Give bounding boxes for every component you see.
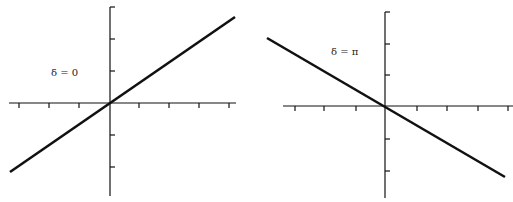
right-plot-line	[267, 38, 505, 177]
label-delta-zero: δ = 0	[51, 67, 78, 78]
left-plot-line	[10, 17, 235, 172]
label-delta-pi: δ = π	[331, 46, 358, 57]
diagram-canvas	[0, 0, 513, 202]
